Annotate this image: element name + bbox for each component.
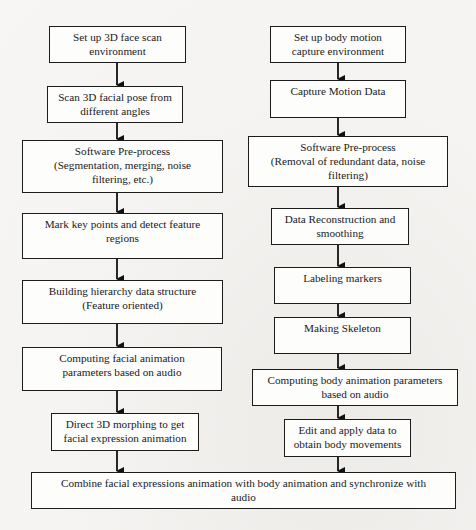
step-text-line: capture environment <box>275 44 401 58</box>
step-text-line: Set up body motion <box>275 30 401 44</box>
step-text-line: audio <box>36 490 451 504</box>
step-build-hierarchy: Building hierarchy data structure (Featu… <box>22 280 223 324</box>
step-text-line: Capture Motion Data <box>275 84 401 98</box>
step-text-line: Software Pre-process <box>27 144 218 158</box>
step-compute-body-params: Computing body animation parameters base… <box>252 369 458 406</box>
step-text-line: based on audio <box>257 387 453 401</box>
step-compute-facial-params: Computing facial animation parameters ba… <box>22 347 222 391</box>
step-scan-facial-pose: Scan 3D facial pose from different angle… <box>47 86 183 123</box>
step-text-line: Software Pre-process <box>253 140 443 154</box>
step-text-line: Computing facial animation <box>27 351 217 365</box>
step-text-line: (Segmentation, merging, noise <box>27 158 218 172</box>
step-text-line: smoothing <box>276 226 404 240</box>
step-data-reconstruction: Data Reconstruction and smoothing <box>271 208 409 245</box>
step-text-line: Combine facial expressions animation wit… <box>36 476 451 490</box>
step-text-line: filtering, etc.) <box>27 172 218 186</box>
step-text-line: Making Skeleton <box>279 321 406 335</box>
step-text-line: different angles <box>52 104 178 118</box>
step-text-line: Edit and apply data to <box>289 423 406 437</box>
step-setup-face-scan: Set up 3D face scan environment <box>49 26 186 63</box>
step-capture-motion-data: Capture Motion Data <box>270 80 406 118</box>
step-body-preprocess: Software Pre-process (Removal of redunda… <box>248 136 448 187</box>
step-text-line: Scan 3D facial pose from <box>52 90 178 104</box>
step-text-line: environment <box>54 44 181 58</box>
step-face-preprocess: Software Pre-process (Segmentation, merg… <box>22 140 223 193</box>
diagram-canvas: Set up 3D face scan environment Scan 3D … <box>0 0 476 530</box>
step-text-line: regions <box>27 231 218 245</box>
step-text-line: Set up 3D face scan <box>54 30 181 44</box>
step-text-line: Computing body animation parameters <box>257 373 453 387</box>
step-text-line: facial expression animation <box>56 431 194 445</box>
step-text-line: Direct 3D morphing to get <box>56 417 194 431</box>
step-combine-and-sync: Combine facial expressions animation wit… <box>31 472 456 509</box>
step-making-skeleton: Making Skeleton <box>274 317 411 354</box>
step-text-line: obtain body movements <box>289 437 406 451</box>
step-edit-apply-data: Edit and apply data to obtain body movem… <box>284 419 411 457</box>
step-mark-key-points: Mark key points and detect feature regio… <box>22 213 223 259</box>
step-text-line: (Feature oriented) <box>27 298 218 312</box>
step-text-line: Data Reconstruction and <box>276 212 404 226</box>
step-3d-morphing: Direct 3D morphing to get facial express… <box>51 413 199 451</box>
step-text-line: Labeling markers <box>279 271 406 285</box>
step-setup-body-capture: Set up body motion capture environment <box>270 26 406 63</box>
step-text-line: (Removal of redundant data, noise <box>253 154 443 168</box>
step-text-line: Building hierarchy data structure <box>27 284 218 298</box>
step-labeling-markers: Labeling markers <box>274 267 411 304</box>
step-text-line: Mark key points and detect feature <box>27 217 218 231</box>
step-text-line: filtering) <box>253 168 443 182</box>
step-text-line: parameters based on audio <box>27 365 217 379</box>
